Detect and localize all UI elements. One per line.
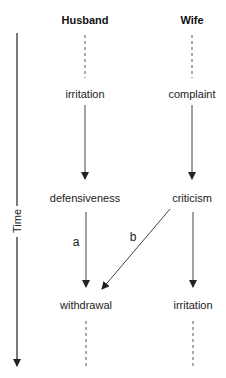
edge-label-a: a (73, 235, 80, 249)
edge-label-b: b (130, 230, 137, 244)
time-axis-label: Time (11, 209, 23, 233)
column-header-husband: Husband (61, 14, 108, 26)
node-wife-irritation: irritation (173, 299, 212, 311)
node-wife-criticism: criticism (172, 192, 212, 204)
node-husband-withdrawal: withdrawal (59, 299, 112, 311)
diagram-svg: Husband Wife Time irritation complaint d… (0, 0, 226, 378)
node-husband-defensiveness: defensiveness (50, 192, 121, 204)
diagram-canvas: Husband Wife Time irritation complaint d… (0, 0, 226, 378)
node-husband-irritation: irritation (65, 88, 104, 100)
column-header-wife: Wife (180, 14, 203, 26)
edge-b-criticism-to-withdrawal (102, 209, 170, 289)
node-wife-complaint: complaint (168, 88, 215, 100)
